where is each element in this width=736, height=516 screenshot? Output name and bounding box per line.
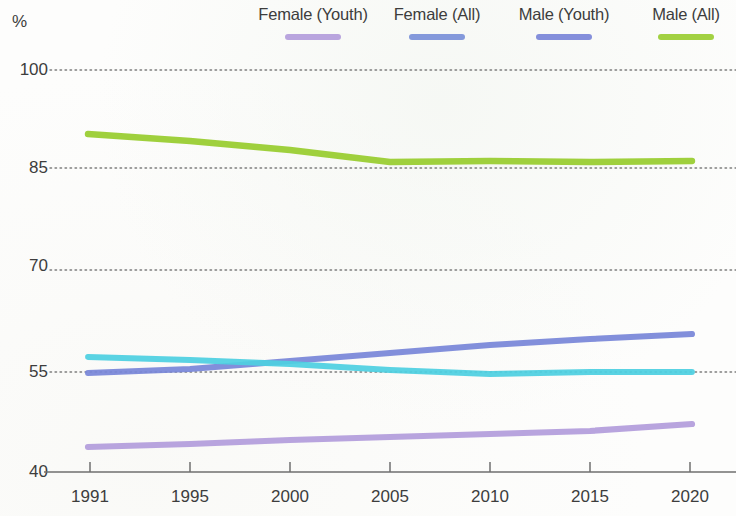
line-chart: Female (Youth) Female (All) Male (Youth)… [0,0,736,516]
plot-area [0,0,736,516]
series-line-female-youth [88,424,692,447]
x-axis-ticks [90,462,690,472]
series-line-male-all [88,134,692,162]
gridlines [50,70,736,372]
